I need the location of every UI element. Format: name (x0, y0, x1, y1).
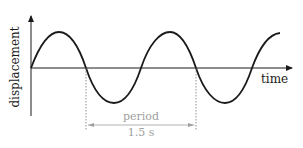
diagram-svg: displacement time period 1.5 s (0, 0, 303, 148)
period-label: period (123, 110, 159, 123)
x-axis-label: time (261, 72, 288, 86)
period-value: 1.5 s (128, 126, 155, 139)
y-axis-label: displacement (8, 26, 22, 107)
sine-wave-diagram: displacement time period 1.5 s (0, 0, 303, 148)
